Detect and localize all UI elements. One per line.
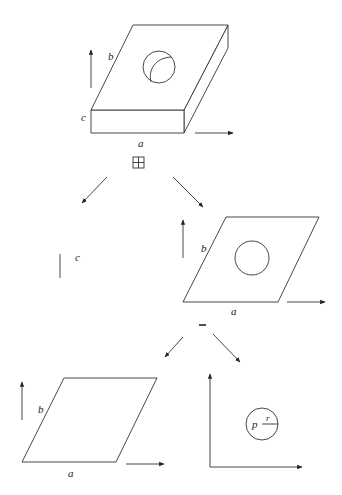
- label-b-bottom: b: [38, 403, 44, 415]
- parallelogram-with-hole: [183, 217, 319, 302]
- branch-arrow-left-1: [82, 177, 107, 203]
- branch-arrow-right-2: [213, 334, 240, 362]
- parallelogram: [22, 378, 157, 462]
- label-a-bottom: a: [68, 467, 74, 479]
- label-r: r: [266, 413, 270, 423]
- branch-arrow-left-2: [165, 337, 183, 357]
- product-operator-icon: [133, 157, 144, 168]
- label-c-middle: c: [75, 251, 80, 263]
- label-c-top: c: [81, 111, 86, 123]
- label-p: p: [251, 418, 258, 430]
- label-a-top: a: [138, 137, 144, 149]
- branch-arrow-right-1: [173, 177, 203, 207]
- label-a-middle: a: [231, 305, 237, 317]
- decomposition-diagram: b c a c b a b a p r: [0, 0, 342, 495]
- circle-primitive: [246, 408, 278, 440]
- plate-solid: [91, 25, 228, 133]
- label-b-top: b: [108, 50, 114, 62]
- label-b-middle: b: [201, 242, 207, 254]
